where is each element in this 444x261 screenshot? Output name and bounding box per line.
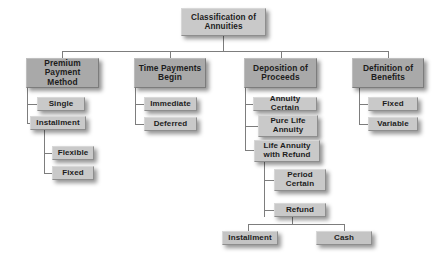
node-label: Deposition of Proceeds: [245, 64, 316, 83]
node-life-annuity-with-refund: Life Annuity with Refund: [254, 140, 320, 162]
connector-refund-stem: [292, 217, 293, 224]
connector-drop-branch-2: [170, 51, 171, 58]
node-deposition-of-proceeds: Deposition of Proceeds: [244, 58, 317, 88]
connector-branch1-to-single: [27, 104, 37, 105]
connector-branch3-to-refund: [264, 210, 274, 211]
connector-branch3-to-annuity-certain: [245, 104, 253, 105]
connector-drop-branch-1: [62, 51, 63, 58]
node-immediate: Immediate: [144, 97, 197, 111]
node-label: Immediate: [148, 100, 192, 109]
node-definition-of-benefits: Definition of Benefits: [352, 58, 424, 88]
connector-branch4-to-variable: [359, 124, 368, 125]
node-label: Flexible: [56, 149, 91, 158]
node-label: Premium Payment Method: [27, 59, 98, 87]
node-label: Life Annuity with Refund: [255, 142, 319, 160]
node-deferred: Deferred: [144, 117, 197, 131]
connector-drop-branch-4: [388, 51, 389, 58]
node-variable: Variable: [368, 117, 418, 131]
node-flexible: Flexible: [52, 146, 94, 160]
node-label: Time Payments Begin: [135, 64, 205, 83]
connector-branch3-spine: [245, 88, 246, 150]
connector-drop-branch-3: [281, 51, 282, 58]
node-label: Period Certain: [275, 171, 325, 189]
node-installment-bottom: Installment: [222, 231, 278, 245]
connector-branch2-to-immediate: [135, 104, 144, 105]
connector-root-bus: [62, 51, 388, 52]
node-label: Single: [47, 100, 76, 109]
node-label: Definition of Benefits: [353, 64, 423, 83]
connector-root-stem: [223, 36, 224, 51]
node-fixed-premium: Fixed: [52, 166, 94, 180]
node-fixed-benefit: Fixed: [368, 97, 418, 111]
node-label: Annuity Certain: [254, 95, 316, 113]
node-label: Pure Life Annuity: [259, 117, 317, 135]
node-installment: Installment: [30, 116, 86, 130]
node-annuity-certain: Annuity Certain: [253, 97, 317, 111]
node-pure-life-annuity: Pure Life Annuity: [258, 115, 318, 137]
node-label: Installment: [226, 234, 273, 243]
node-period-certain: Period Certain: [274, 169, 326, 191]
node-refund: Refund: [274, 203, 326, 217]
connector-drop-cash: [344, 224, 345, 231]
node-label: Installment: [34, 119, 81, 128]
connector-branch1-spine-lower: [27, 104, 28, 123]
connector-refund-bus: [248, 224, 344, 225]
connector-branch1-to-flexible: [44, 153, 52, 154]
connector-branch4-spine: [359, 88, 360, 124]
node-cash: Cash: [316, 231, 372, 245]
connector-branch2-spine: [135, 88, 136, 124]
node-label: Variable: [375, 120, 411, 129]
node-label: Fixed: [60, 169, 85, 178]
node-time-payments-begin: Time Payments Begin: [134, 58, 206, 88]
node-premium-payment-method: Premium Payment Method: [26, 58, 99, 88]
node-label: Cash: [332, 234, 356, 243]
node-classification-of-annuities: Classification of Annuities: [181, 8, 266, 36]
node-label: Deferred: [152, 120, 190, 129]
connector-branch4-to-fixed: [359, 104, 368, 105]
connector-branch1-to-fixed: [44, 173, 52, 174]
node-label: Fixed: [380, 100, 405, 109]
connector-branch1-sub-spine: [44, 130, 45, 173]
node-label: Classification of Annuities: [182, 13, 265, 31]
connector-branch3-to-period-certain: [264, 180, 274, 181]
connector-branch3-to-pure-life: [245, 126, 258, 127]
annuity-classification-diagram: Classification of Annuities Premium Paym…: [0, 0, 444, 261]
node-label: Refund: [284, 206, 316, 215]
connector-branch3-sub-spine: [264, 162, 265, 217]
connector-drop-installment-bottom: [248, 224, 249, 231]
node-single: Single: [37, 97, 85, 111]
connector-branch2-to-deferred: [135, 124, 144, 125]
